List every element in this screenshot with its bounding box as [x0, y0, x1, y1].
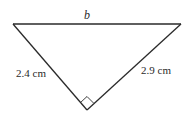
triangle-diagram: b 2.4 cm 2.9 cm [0, 0, 182, 135]
label-right-side: 2.9 cm [141, 64, 171, 76]
label-b: b [84, 8, 90, 22]
right-angle-marker [81, 97, 94, 104]
label-left-side: 2.4 cm [16, 67, 46, 79]
